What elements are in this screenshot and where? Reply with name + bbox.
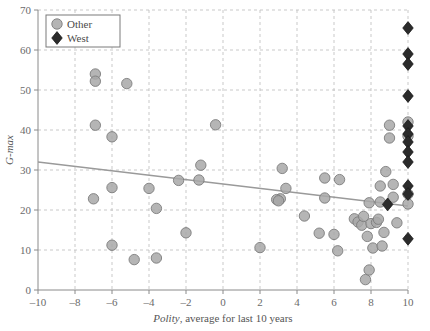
x-tick-label: –6: [106, 296, 119, 308]
data-point-west: [403, 90, 413, 103]
data-point-other: [314, 228, 324, 238]
x-tick-label: –4: [143, 296, 156, 308]
legend-label-west: West: [67, 32, 89, 44]
data-point-other: [107, 182, 117, 192]
data-point-other: [122, 78, 132, 88]
data-point-other: [333, 246, 343, 256]
chart-canvas: –10–8–6–4–20246810 010203040506070 Other…: [0, 0, 430, 331]
data-point-other: [320, 193, 330, 203]
x-tick-label: –10: [29, 296, 47, 308]
y-tick-label: 50: [20, 84, 32, 96]
x-tick-label: 2: [257, 296, 263, 308]
legend-label-other: Other: [67, 18, 92, 30]
data-point-other: [381, 166, 391, 176]
data-point-other: [129, 254, 139, 264]
data-point-other: [320, 173, 330, 183]
data-point-other: [373, 214, 383, 224]
x-tick-label: 4: [294, 296, 300, 308]
data-point-west: [403, 188, 413, 201]
data-point-other: [299, 211, 309, 221]
data-point-other: [107, 132, 117, 142]
y-tick-label: 70: [20, 4, 32, 16]
data-point-other: [368, 243, 378, 253]
data-point-other: [384, 120, 394, 130]
data-point-west: [403, 232, 413, 245]
data-point-other: [277, 163, 287, 173]
x-tick-label: 0: [220, 296, 226, 308]
data-point-west: [403, 22, 413, 35]
legend-marker-other: [52, 19, 62, 29]
data-point-other: [364, 198, 374, 208]
data-point-other: [360, 274, 370, 284]
y-axis-title: G-max: [3, 135, 15, 165]
x-tick-label: 6: [331, 296, 337, 308]
x-axis-ticks: –10–8–6–4–20246810: [29, 290, 414, 308]
x-axis-title: Polity, average for last 10 years: [152, 312, 292, 324]
data-point-other: [334, 174, 344, 184]
data-point-other: [364, 265, 374, 275]
gridlines: [38, 10, 408, 290]
data-point-other: [273, 196, 283, 206]
y-tick-label: 10: [20, 244, 32, 256]
y-tick-label: 40: [20, 124, 32, 136]
data-point-other: [210, 120, 220, 130]
x-tick-label: 8: [368, 296, 374, 308]
y-tick-label: 20: [20, 204, 32, 216]
data-point-other: [173, 175, 183, 185]
x-tick-label: –2: [180, 296, 192, 308]
data-point-other: [107, 240, 117, 250]
data-point-other: [181, 228, 191, 238]
data-point-other: [392, 218, 402, 228]
data-point-other: [384, 133, 394, 143]
y-tick-label: 60: [20, 44, 32, 56]
data-points-other: [88, 69, 413, 285]
y-tick-label: 30: [20, 164, 32, 176]
data-point-other: [281, 183, 291, 193]
data-point-other: [194, 175, 204, 185]
data-point-other: [377, 241, 387, 251]
data-point-other: [329, 229, 339, 239]
chart-legend: OtherWest: [46, 15, 120, 47]
scatter-chart-figure: –10–8–6–4–20246810 010203040506070 Other…: [0, 0, 430, 331]
y-axis-ticks: 010203040506070: [20, 4, 38, 296]
data-point-other: [388, 179, 398, 189]
x-tick-label: –8: [69, 296, 82, 308]
data-point-other: [144, 183, 154, 193]
data-point-other: [379, 227, 389, 237]
y-tick-label: 0: [26, 284, 32, 296]
x-tick-label: 10: [403, 296, 415, 308]
data-point-other: [151, 253, 161, 263]
data-point-other: [151, 203, 161, 213]
data-point-other: [90, 120, 100, 130]
data-point-west: [403, 156, 413, 169]
x-axis-title-italic: Polity: [152, 312, 179, 324]
data-point-other: [375, 181, 385, 191]
data-point-west: [403, 58, 413, 71]
data-point-other: [255, 242, 265, 252]
data-point-other: [88, 194, 98, 204]
x-axis-title-rest: , average for last 10 years: [180, 312, 293, 324]
data-point-other: [362, 231, 372, 241]
data-point-other: [90, 76, 100, 86]
data-point-other: [196, 160, 206, 170]
